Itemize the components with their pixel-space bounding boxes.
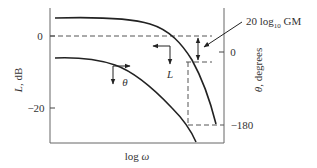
left-tick-label-0: 0 [37, 30, 43, 42]
phase-curve-theta [55, 58, 196, 142]
left-ticks [50, 36, 55, 108]
x-axis-label: log ω [125, 150, 150, 162]
left-axis-label: L, dB [12, 68, 24, 93]
right-tick-label-0: 0 [230, 46, 236, 58]
L-curve-label: L [166, 68, 173, 80]
right-axis-label: θ, degrees [252, 48, 264, 93]
theta-curve-label: θ [122, 76, 128, 88]
right-tick-label-m180: −180 [231, 119, 254, 131]
L-indicator-arrows [153, 46, 170, 64]
left-tick-label-m20: −20 [27, 102, 45, 114]
gain-margin-label: 20 log10 GM [246, 15, 302, 30]
gm-leader-line [204, 22, 242, 47]
axes-frame [50, 8, 224, 143]
magnitude-curve-L [55, 18, 216, 124]
bode-gain-margin-diagram: 0 −20 0 −180 L, dB θ, degrees log ω L θ … [0, 0, 317, 168]
